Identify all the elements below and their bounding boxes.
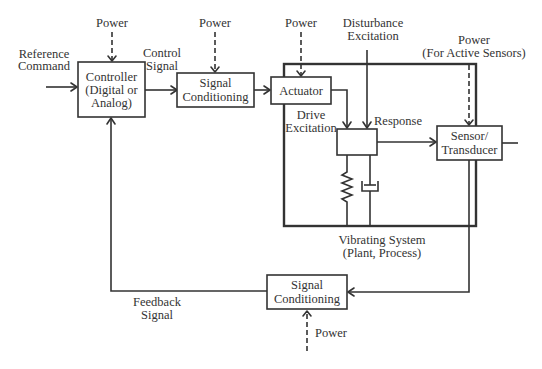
- power-controller: Power: [96, 16, 129, 61]
- svg-text:Power: Power: [285, 16, 318, 30]
- power-feedback-conditioning: Power: [303, 311, 348, 351]
- svg-text:Analog): Analog): [91, 96, 132, 110]
- svg-text:Control: Control: [143, 46, 182, 60]
- plant-caption: Vibrating System (Plant, Process): [338, 233, 425, 260]
- svg-text:Excitation: Excitation: [347, 29, 399, 43]
- svg-text:(Plant, Process): (Plant, Process): [343, 246, 421, 260]
- reference-command-arrow: [46, 83, 77, 91]
- svg-text:Drive: Drive: [297, 108, 326, 122]
- feedback-signal-wire: [107, 118, 267, 291]
- conditioned-signal-arrow: [254, 86, 270, 94]
- svg-text:Conditioning: Conditioning: [183, 90, 250, 104]
- svg-text:Controller: Controller: [86, 70, 138, 84]
- response-arrow: [377, 138, 436, 146]
- svg-text:Signal: Signal: [291, 278, 323, 292]
- svg-text:Vibrating System: Vibrating System: [338, 233, 425, 247]
- control-signal-label: Control Signal: [143, 46, 182, 73]
- signal-conditioning-feedback-block: Signal Conditioning: [267, 275, 347, 309]
- svg-text:(Digital or: (Digital or: [85, 83, 138, 97]
- svg-text:Feedback: Feedback: [133, 295, 182, 309]
- svg-text:Disturbance: Disturbance: [343, 16, 404, 30]
- mass-block: [337, 129, 377, 155]
- svg-text:Excitation: Excitation: [285, 121, 337, 135]
- svg-text:Actuator: Actuator: [279, 84, 324, 98]
- sensor-to-feedback-wire: [348, 160, 469, 296]
- drive-excitation-label: Drive Excitation: [285, 108, 337, 135]
- disturbance-excitation-label: Disturbance Excitation: [343, 16, 404, 43]
- svg-text:Transducer: Transducer: [442, 143, 499, 157]
- svg-text:Signal: Signal: [200, 76, 232, 90]
- controller-block: Controller (Digital or Analog): [78, 62, 145, 117]
- spring-icon: [342, 155, 352, 226]
- power-signal-conditioning: Power: [199, 16, 232, 72]
- signal-conditioning-forward-block: Signal Conditioning: [177, 73, 254, 107]
- svg-text:Power: Power: [199, 16, 232, 30]
- response-label: Response: [374, 114, 422, 128]
- reference-command-label: Reference Command: [18, 47, 71, 73]
- svg-text:Conditioning: Conditioning: [274, 292, 341, 306]
- disturbance-excitation-arrow: [363, 50, 371, 128]
- svg-text:Command: Command: [18, 59, 71, 73]
- damper-icon: [362, 155, 378, 226]
- svg-text:(For Active Sensors): (For Active Sensors): [422, 46, 525, 60]
- control-block-diagram: Reference Command Power Controller (Digi…: [0, 0, 542, 369]
- svg-text:Signal: Signal: [146, 59, 178, 73]
- svg-text:Power: Power: [315, 326, 348, 340]
- svg-text:Response: Response: [374, 114, 422, 128]
- power-actuator: Power: [285, 16, 318, 76]
- sensor-block: Sensor/ Transducer: [437, 126, 502, 160]
- power-sensor: Power (For Active Sensors): [422, 33, 525, 125]
- svg-text:Power: Power: [458, 33, 491, 47]
- control-signal-arrow: [145, 86, 177, 94]
- svg-text:Power: Power: [96, 16, 129, 30]
- feedback-signal-label: Feedback Signal: [133, 295, 182, 322]
- actuator-block: Actuator: [271, 77, 331, 104]
- svg-text:Signal: Signal: [141, 308, 173, 322]
- svg-text:Sensor/: Sensor/: [451, 129, 489, 143]
